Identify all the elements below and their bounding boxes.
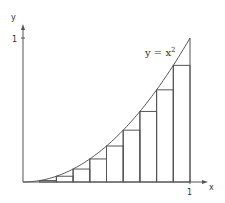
x-axis-arrow-icon (202, 180, 208, 184)
riemann-rectangle (157, 90, 174, 182)
y-axis-label: y (11, 13, 16, 22)
riemann-rectangle (140, 111, 157, 182)
curve-label-exponent: 2 (171, 46, 175, 54)
riemann-sum-diagram: y 1 x 1 y = x2 (0, 0, 225, 203)
riemann-rectangle (173, 65, 190, 182)
curve-label-base: y = x (144, 47, 171, 58)
y-tick-label: 1 (12, 35, 17, 44)
x-tick-label: 1 (187, 188, 192, 197)
y-axis-arrow-icon (21, 24, 25, 30)
curve-label: y = x2 (144, 46, 176, 58)
riemann-rectangle (107, 146, 124, 182)
riemann-rectangle (73, 169, 90, 182)
x-axis-label: x (209, 183, 214, 192)
riemann-rectangle (56, 176, 73, 182)
riemann-rectangles (40, 38, 190, 182)
riemann-rectangle (90, 159, 107, 182)
riemann-rectangle (123, 130, 140, 182)
